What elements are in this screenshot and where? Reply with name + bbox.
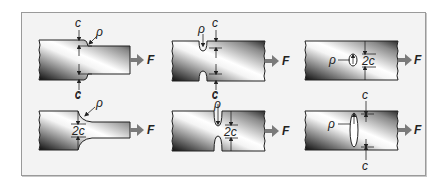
label-c-top: c — [75, 16, 81, 30]
force-arrow-icon — [398, 124, 412, 136]
label-c-bottom: c — [362, 159, 368, 173]
specimen-body — [172, 111, 265, 151]
label-2c: 2c — [361, 54, 375, 68]
label-rho: ρ — [328, 53, 336, 67]
label-rho: ρ — [213, 97, 221, 111]
label-rho: ρ — [95, 96, 103, 110]
label-rho: ρ — [327, 117, 335, 131]
label-force: F — [414, 123, 422, 137]
label-force: F — [282, 124, 290, 138]
label-2c: 2c — [71, 124, 85, 138]
label-c-top: c — [362, 88, 368, 102]
label-force: F — [147, 53, 155, 67]
force-arrow-icon — [130, 124, 144, 136]
specimen-shoulder-fillet: c ρ 2c F — [39, 87, 155, 150]
label-2c: 2c — [223, 125, 237, 139]
force-arrow-icon — [265, 55, 279, 67]
specimen-body — [172, 41, 265, 81]
label-force: F — [414, 53, 422, 67]
label-force: F — [147, 123, 155, 137]
force-arrow-icon — [265, 125, 279, 137]
stress-concentration-diagram: c ρ c F c ρ c F — [0, 0, 446, 187]
specimen-small-hole: ρ 2c F — [305, 41, 422, 80]
label-rho: ρ — [197, 22, 205, 36]
label-force: F — [282, 54, 290, 68]
specimen-shoulder-step: c ρ c F — [39, 16, 155, 102]
force-arrow-icon — [130, 54, 144, 66]
specimen-elliptical-hole: ρ c c F — [305, 88, 422, 173]
label-c-top: c — [212, 16, 218, 30]
specimen-double-notch-shallow: c ρ c F — [172, 16, 290, 102]
specimen-double-notch-deep: c ρ 2c F — [172, 87, 290, 151]
label-c-top: c — [75, 87, 81, 101]
force-arrow-icon — [398, 54, 412, 66]
label-rho: ρ — [95, 25, 103, 39]
